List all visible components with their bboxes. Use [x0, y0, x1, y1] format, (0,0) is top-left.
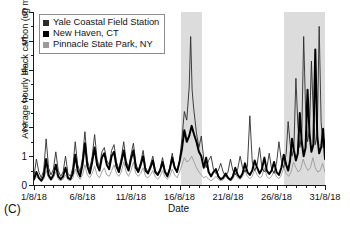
x-tick-minor [112, 185, 113, 188]
x-tick-minor [209, 185, 210, 188]
x-tick-minor [218, 185, 219, 188]
x-tick-minor [170, 185, 171, 188]
x-tick-label: 31/8/18 [309, 192, 340, 202]
x-tick-minor [267, 185, 268, 188]
y-tick-label: 0 [21, 180, 27, 191]
x-tick-label: 11/8/18 [116, 192, 146, 202]
x-tick [83, 185, 84, 190]
x-tick-label: 6/8/18 [70, 192, 96, 202]
legend-label: New Haven, CT [53, 28, 119, 39]
x-axis-label: Date [33, 203, 324, 214]
x-tick-label: 16/8/18 [164, 192, 195, 202]
legend: Yale Coastal Field StationNew Haven, CTP… [39, 14, 165, 54]
legend-label: Pinnacle State Park, NY [53, 39, 153, 50]
chart-figure: Average hourly black carbon (ug m-3) 012… [0, 0, 350, 227]
x-tick [131, 185, 132, 190]
x-tick-minor [53, 185, 54, 188]
y-tick-minor [31, 113, 34, 114]
y-tick-minor [31, 26, 34, 27]
x-tick-minor [306, 185, 307, 188]
x-tick-minor [199, 185, 200, 188]
legend-swatch-icon [43, 20, 49, 26]
x-tick [325, 185, 326, 190]
y-tick [29, 156, 34, 157]
y-tick [29, 70, 34, 71]
x-tick [34, 185, 35, 190]
y-tick-label: 4 [21, 64, 27, 75]
x-tick-minor [189, 185, 190, 188]
y-tick [29, 12, 34, 13]
y-tick-minor [31, 55, 34, 56]
y-tick-label: 2 [21, 122, 27, 133]
x-tick-minor [73, 185, 74, 188]
y-tick [29, 41, 34, 42]
y-tick [29, 127, 34, 128]
x-tick-label: 26/8/18 [261, 192, 292, 202]
x-tick-minor [296, 185, 297, 188]
x-tick [228, 185, 229, 190]
x-tick-minor [247, 185, 248, 188]
x-tick-minor [92, 185, 93, 188]
y-tick-minor [31, 142, 34, 143]
y-tick-label: 6 [21, 7, 27, 18]
x-tick-minor [150, 185, 151, 188]
x-tick-minor [286, 185, 287, 188]
y-tick-label: 3 [21, 93, 27, 104]
y-tick-minor [31, 171, 34, 172]
legend-label: Yale Coastal Field Station [53, 17, 159, 28]
x-tick-minor [63, 185, 64, 188]
x-tick-minor [160, 185, 161, 188]
panel-label: (C) [4, 202, 21, 216]
legend-swatch-icon [43, 42, 49, 48]
x-tick-minor [141, 185, 142, 188]
y-tick-minor [31, 84, 34, 85]
x-tick [180, 185, 181, 190]
x-tick-minor [315, 185, 316, 188]
x-tick-minor [238, 185, 239, 188]
legend-item[interactable]: New Haven, CT [43, 28, 159, 39]
x-tick-label: 1/8/18 [21, 192, 47, 202]
y-tick-label: 5 [21, 35, 27, 46]
y-tick [29, 99, 34, 100]
x-tick-label: 21/8/18 [212, 192, 243, 202]
x-tick-minor [257, 185, 258, 188]
y-tick-label: 1 [21, 151, 27, 162]
legend-item[interactable]: Pinnacle State Park, NY [43, 39, 159, 50]
legend-swatch-icon [43, 31, 49, 37]
x-tick-minor [44, 185, 45, 188]
legend-item[interactable]: Yale Coastal Field Station [43, 17, 159, 28]
x-tick-minor [121, 185, 122, 188]
x-tick-minor [102, 185, 103, 188]
x-tick [277, 185, 278, 190]
